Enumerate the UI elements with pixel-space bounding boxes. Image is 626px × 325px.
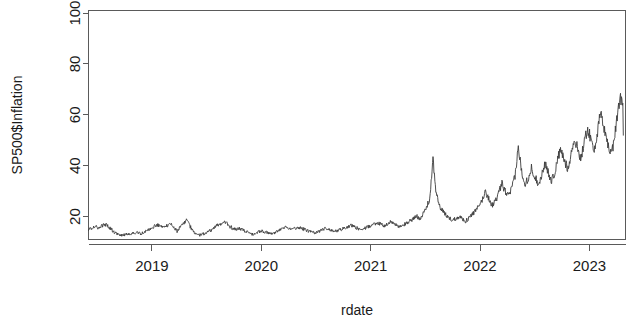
plot-box-border [89, 11, 626, 240]
y-axis-tick-labels: 20406080100 [66, 1, 83, 225]
y-tick-label: 20 [66, 208, 83, 225]
x-axis-tick-labels: 20192020202120222023 [135, 257, 606, 274]
x-tick-label: 2020 [245, 257, 278, 274]
x-tick-label: 2019 [135, 257, 168, 274]
x-axis-title: rdate [341, 302, 373, 318]
x-tick-label: 2021 [354, 257, 387, 274]
chart-figure: 20406080100 20192020202120222023 rdate S… [0, 0, 626, 325]
chart-canvas: 20406080100 20192020202120222023 rdate S… [0, 0, 626, 325]
y-tick-label: 40 [66, 157, 83, 174]
x-tick-label: 2023 [573, 257, 606, 274]
y-tick-label: 80 [66, 56, 83, 73]
y-tick-label: 100 [66, 1, 83, 26]
data-series-group [89, 93, 624, 236]
plot-frame [89, 11, 626, 240]
series-line-sp500-inflation [89, 93, 624, 236]
y-axis-title: SP500$Inflation [9, 76, 25, 175]
y-tick-label: 60 [66, 106, 83, 123]
x-tick-label: 2022 [463, 257, 496, 274]
x-axis-ticks [152, 245, 589, 252]
